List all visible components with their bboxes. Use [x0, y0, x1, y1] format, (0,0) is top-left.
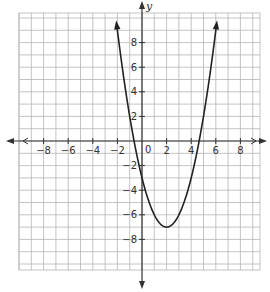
y-tick-label: 4	[131, 86, 137, 97]
x-tick-label: −6	[61, 145, 76, 156]
y-tick-label: 6	[131, 62, 137, 73]
x-tick-label: −2	[110, 145, 125, 156]
x-tick-label: 4	[188, 145, 194, 156]
x-tick-label: −8	[36, 145, 51, 156]
x-tick-label: 6	[213, 145, 219, 156]
y-axis-down-arrow-icon	[139, 281, 145, 289]
x-tick-label: −4	[85, 145, 100, 156]
y-tick-label: 8	[131, 37, 137, 48]
x-tick-label: 8	[237, 145, 243, 156]
tick-labels: −8−6−4−224688642−2−4−6−80y	[36, 0, 243, 245]
y-tick-label: −4	[122, 185, 137, 196]
y-axis-up-arrow-icon	[139, 1, 145, 9]
y-tick-label: −2	[122, 160, 137, 171]
coordinate-plane: −8−6−4−224688642−2−4−6−80y	[0, 0, 270, 292]
y-tick-label: −6	[122, 209, 137, 220]
origin-label: 0	[145, 144, 151, 155]
x-axis-left-arrow-icon	[6, 138, 14, 144]
y-axis-label: y	[145, 0, 153, 13]
x-axis-right-arrow-icon	[259, 138, 267, 144]
y-tick-label: 2	[131, 111, 137, 122]
y-tick-label: −8	[122, 234, 137, 245]
x-tick-label: 2	[163, 145, 169, 156]
